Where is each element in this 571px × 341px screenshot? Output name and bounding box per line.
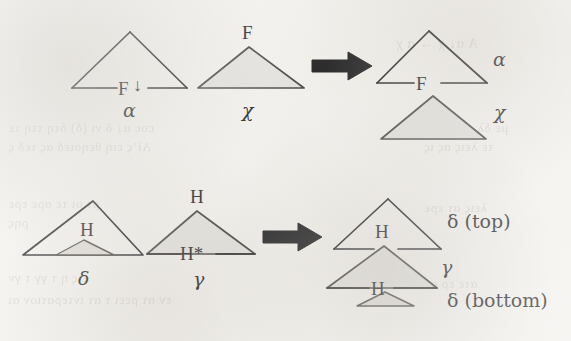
side-label-chi: χ bbox=[494, 103, 506, 122]
caption-alpha: α bbox=[123, 101, 136, 120]
diagram-label-layer: F ↓ F α χ F α χ H H H* δ γ H H δ (top) γ… bbox=[0, 0, 571, 341]
side-label-gamma: γ bbox=[441, 258, 452, 277]
label-f-result: F bbox=[416, 74, 427, 93]
side-label-delta-top: δ (top) bbox=[447, 212, 511, 231]
caption-delta: δ bbox=[78, 269, 89, 288]
label-h-delta-top-result: H bbox=[375, 222, 389, 241]
label-f-chi-apex: F bbox=[242, 23, 253, 42]
caption-chi: χ bbox=[242, 101, 254, 120]
label-h-gamma-apex: H bbox=[190, 187, 204, 206]
figure-root: A α↓ χ → α χcoc α↓ δ νι (δ) δτη ττη τεAi… bbox=[0, 0, 571, 341]
side-label-alpha: α bbox=[493, 50, 506, 69]
label-h-delta-source: H bbox=[80, 220, 94, 239]
label-h-star-gamma: H* bbox=[180, 244, 203, 263]
label-h-gamma-result: H bbox=[371, 279, 385, 298]
caption-gamma: γ bbox=[193, 270, 204, 289]
label-f-alpha-source: F bbox=[118, 79, 129, 98]
side-label-delta-bottom: δ (bottom) bbox=[447, 291, 548, 310]
down-arrow-icon: ↓ bbox=[133, 76, 142, 94]
